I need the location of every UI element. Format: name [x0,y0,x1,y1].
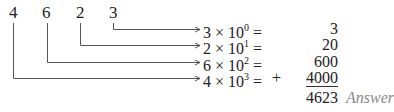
arrow-thousands [14,23,201,79]
arrow-hundreds [48,23,201,63]
total-value: 4623 [290,89,338,107]
place-value: 4000 [290,69,338,87]
plus-sign: + [272,69,281,87]
place-value: 20 [290,36,338,54]
sum-underline: 4000 [306,69,338,87]
arrow-tens [81,23,201,46]
answer-label: Answer [346,89,394,107]
expression: 4 × 103 = [203,69,262,91]
arrow-ones [114,23,201,30]
